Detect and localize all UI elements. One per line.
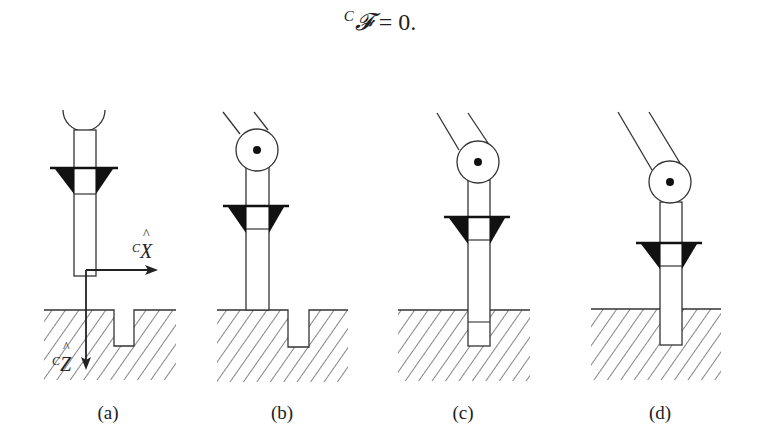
- x-axis-label: C^X: [132, 240, 152, 263]
- peg-in-hole-figure: [0, 0, 760, 441]
- surface-block-d: [591, 309, 721, 380]
- arm-link-c-right: [468, 113, 488, 143]
- arm-link-c-left: [437, 113, 459, 150]
- joint-axis-dot-b: [253, 146, 261, 154]
- arm-link-b-right: [254, 112, 268, 130]
- z-axis-label: C^Z: [52, 353, 71, 376]
- caption-d: (d): [640, 402, 680, 424]
- surface-block-b: [217, 310, 348, 382]
- panel-b: [217, 112, 348, 382]
- surface-block-c: [398, 310, 530, 381]
- panel-c: [398, 113, 530, 381]
- peg-a: [74, 130, 96, 276]
- peg-d: [660, 202, 682, 345]
- arm-link-d-right: [649, 112, 680, 163]
- arm-link-d-left: [618, 112, 652, 170]
- gripper-end-a: [63, 110, 105, 131]
- joint-axis-dot-c: [474, 158, 482, 166]
- peg-c: [468, 180, 490, 346]
- panel-d: [591, 112, 721, 380]
- caption-a: (a): [88, 402, 128, 424]
- peg-b: [246, 158, 269, 310]
- caption-c: (c): [443, 402, 483, 424]
- caption-b: (b): [262, 402, 302, 424]
- joint-axis-dot-d: [666, 178, 674, 186]
- arm-link-b-left: [223, 112, 240, 134]
